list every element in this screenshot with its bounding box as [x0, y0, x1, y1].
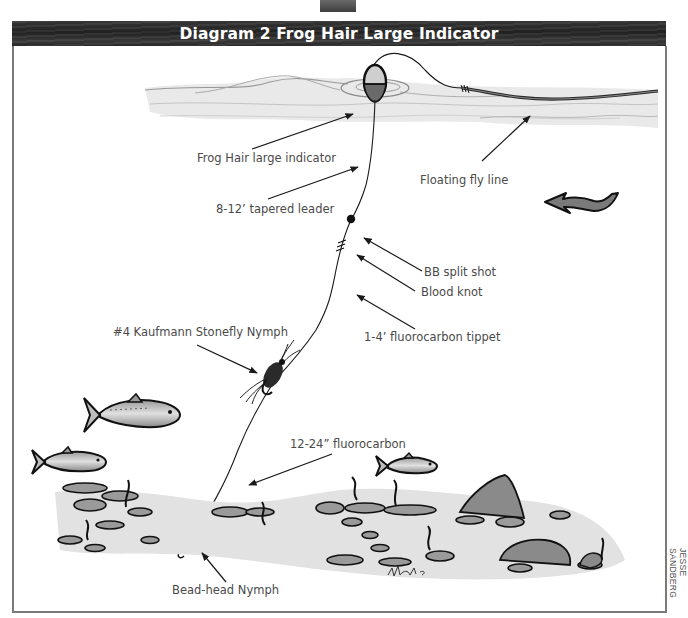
label-leader: 8-12’ tapered leader	[216, 202, 334, 216]
leader-arrow	[268, 167, 358, 199]
illustrator-credit: JESSE SANDBERG	[668, 548, 688, 618]
trout-fish	[376, 453, 437, 476]
trout-fish	[32, 447, 106, 474]
bead-head-arrow	[202, 553, 226, 582]
leader-line	[190, 100, 375, 540]
label-stonefly: #4 Kaufmann Stonefly Nymph	[113, 325, 288, 339]
wavy-arrow-left-icon	[545, 193, 618, 213]
stonefly-arrow	[197, 345, 257, 373]
trout-fish	[84, 394, 180, 432]
stonefly-nymph	[240, 340, 300, 404]
split-shot-arrow	[364, 238, 422, 271]
label-split-shot: BB split shot	[424, 265, 496, 279]
label-fluorocarbon: 12-24” fluorocarbon	[290, 437, 406, 451]
fluorocarbon-arrow	[249, 454, 332, 485]
tippet-arrow	[357, 295, 415, 329]
water-surface	[145, 76, 658, 128]
diagram-title: Diagram 2 Frog Hair Large Indicator	[180, 25, 499, 43]
label-blood-knot: Blood knot	[421, 285, 483, 299]
label-tippet: 1-4’ fluorocarbon tippet	[364, 330, 500, 344]
label-bead-head: Bead-head Nymph	[172, 583, 279, 597]
label-fly-line: Floating fly line	[420, 173, 508, 187]
blood-knot	[336, 240, 346, 251]
label-indicator: Frog Hair large indicator	[197, 151, 336, 165]
split-shot	[347, 215, 355, 223]
river-bed	[55, 475, 625, 579]
blood-knot-arrow	[357, 255, 415, 291]
frog-hair-indicator	[364, 65, 386, 102]
